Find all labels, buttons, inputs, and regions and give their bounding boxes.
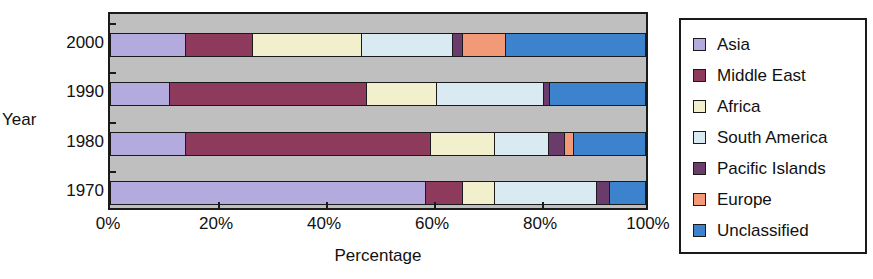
bar-row <box>110 181 646 205</box>
legend-label: Middle East <box>717 66 806 86</box>
legend-item-africa[interactable]: Africa <box>693 91 865 122</box>
y-tick-mark <box>109 23 116 25</box>
bar-segment-middle-east <box>426 182 463 204</box>
legend-swatch-icon <box>693 162 706 175</box>
bar-row <box>110 33 646 57</box>
bar-segment-africa <box>463 182 495 204</box>
bar-segment-unclassified <box>610 182 645 204</box>
legend-item-middle-east[interactable]: Middle East <box>693 60 865 91</box>
bar-segment-europe <box>463 34 506 56</box>
legend-swatch-icon <box>693 193 706 206</box>
x-tick-label-0pct: 0% <box>68 214 148 234</box>
bar-segment-pacific-islands <box>453 34 464 56</box>
legend-item-asia[interactable]: Asia <box>693 29 865 60</box>
legend-label: Pacific Islands <box>717 159 826 179</box>
legend-swatch-icon <box>693 100 706 113</box>
bar-segment-middle-east <box>186 133 432 155</box>
legend-label: Unclassified <box>717 221 809 241</box>
legend-item-pacific-islands[interactable]: Pacific Islands <box>693 153 865 184</box>
legend-label: Africa <box>717 97 760 117</box>
x-tick-label-20pct: 20% <box>176 214 256 234</box>
bar-segment-pacific-islands <box>597 182 610 204</box>
stacked-bar-2000 <box>110 33 646 57</box>
bar-segment-asia <box>111 83 170 105</box>
bar-segment-south-america <box>495 182 596 204</box>
legend-label: South America <box>717 128 828 148</box>
legend-swatch-icon <box>693 38 706 51</box>
legend-swatch-icon <box>693 131 706 144</box>
y-tick-label-2000: 2000 <box>42 33 104 53</box>
plot-area <box>108 12 648 210</box>
y-tick-mark <box>109 72 116 74</box>
y-tick-label-1990: 1990 <box>42 82 104 102</box>
legend-item-europe[interactable]: Europe <box>693 184 865 215</box>
bar-segment-south-america <box>495 133 548 155</box>
y-tick-mark <box>109 171 116 173</box>
bar-segment-asia <box>111 182 426 204</box>
x-tick-label-80pct: 80% <box>500 214 580 234</box>
bar-segment-unclassified <box>506 34 645 56</box>
x-tick-label-100pct: 100% <box>608 214 688 234</box>
x-tick-mark <box>326 202 328 209</box>
x-axis-title: Percentage <box>108 246 648 266</box>
x-tick-mark <box>218 202 220 209</box>
bar-segment-pacific-islands <box>549 133 565 155</box>
x-axis-tick-labels: 0%20%40%60%80%100% <box>108 214 648 238</box>
bar-segment-unclassified <box>550 83 645 105</box>
legend-swatch-icon <box>693 224 706 237</box>
bar-segment-europe <box>565 133 574 155</box>
bar-segment-asia <box>111 34 186 56</box>
legend-label: Europe <box>717 190 772 210</box>
x-tick-label-40pct: 40% <box>284 214 364 234</box>
bar-segment-unclassified <box>574 133 645 155</box>
legend-label: Asia <box>717 35 750 55</box>
bar-segment-middle-east <box>170 83 368 105</box>
bar-segment-pacific-islands <box>544 83 551 105</box>
bar-row <box>110 82 646 106</box>
stacked-bar-1970 <box>110 181 646 205</box>
bar-segment-middle-east <box>186 34 253 56</box>
stacked-bar-1980 <box>110 132 646 156</box>
bar-segment-south-america <box>437 83 544 105</box>
bar-segment-africa <box>367 83 436 105</box>
y-tick-label-1980: 1980 <box>42 132 104 152</box>
bar-segment-africa <box>431 133 495 155</box>
y-tick-mark <box>109 122 116 124</box>
stacked-bar-chart: Year 2000199019801970 0%20%40%60%80%100%… <box>0 0 873 279</box>
bar-segment-africa <box>253 34 362 56</box>
bar-segment-asia <box>111 133 186 155</box>
y-tick-label-1970: 1970 <box>42 181 104 201</box>
chart-legend: AsiaMiddle EastAfricaSouth AmericaPacifi… <box>679 18 867 254</box>
stacked-bar-1990 <box>110 82 646 106</box>
bar-segment-south-america <box>362 34 453 56</box>
x-tick-mark <box>434 202 436 209</box>
bar-row <box>110 132 646 156</box>
legend-swatch-icon <box>693 69 706 82</box>
x-tick-label-60pct: 60% <box>392 214 472 234</box>
y-axis-tick-labels: 2000199019801970 <box>40 0 104 279</box>
x-tick-mark <box>542 202 544 209</box>
legend-item-unclassified[interactable]: Unclassified <box>693 215 865 246</box>
legend-item-south-america[interactable]: South America <box>693 122 865 153</box>
